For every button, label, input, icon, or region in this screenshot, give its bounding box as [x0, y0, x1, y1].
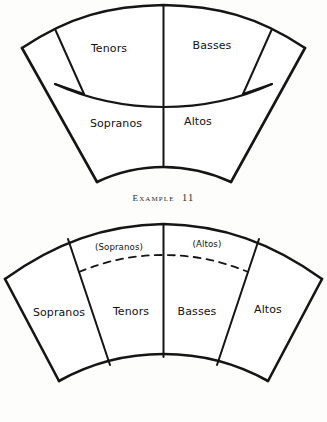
caption-word-1: xample: [139, 192, 174, 203]
caption-number-1: 11: [182, 192, 194, 203]
label-altos-parenthetical: (Altos): [193, 239, 222, 249]
label-sopranos-2: Sopranos: [33, 306, 85, 319]
label-altos: Altos: [184, 115, 212, 128]
caption-example-11: Example 11: [0, 190, 327, 205]
fan-diagram-example-12: (Sopranos) (Altos) Sopranos Tenors Basse…: [0, 211, 327, 397]
figure-example-11: Tenors Basses Sopranos Altos Example 11: [0, 0, 327, 211]
page-canvas: Tenors Basses Sopranos Altos Example 11: [0, 0, 327, 422]
fan-diagram-example-11: Tenors Basses Sopranos Altos: [0, 0, 327, 190]
label-tenors-2: Tenors: [112, 305, 149, 318]
label-basses: Basses: [193, 39, 232, 52]
label-sopranos: Sopranos: [90, 117, 142, 130]
label-tenors: Tenors: [90, 42, 127, 55]
label-sopranos-parenthetical: (Sopranos): [95, 242, 143, 252]
label-basses-2: Basses: [178, 305, 217, 318]
figure-example-12: (Sopranos) (Altos) Sopranos Tenors Basse…: [0, 211, 327, 422]
label-altos-2: Altos: [254, 303, 282, 316]
